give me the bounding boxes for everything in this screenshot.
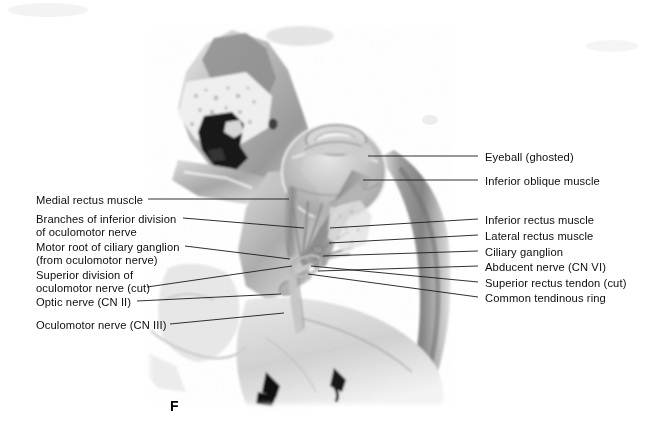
leader-line-lateral-rectus-muscle bbox=[329, 235, 478, 243]
leader-line-ciliary-ganglion bbox=[323, 251, 478, 256]
leader-line-superior-division-oculomotor-nerve-cut bbox=[147, 266, 292, 287]
label-ciliary-ganglion: Ciliary ganglion bbox=[485, 246, 563, 259]
figure-letter: F bbox=[170, 398, 179, 414]
label-eyeball-ghosted: Eyeball (ghosted) bbox=[485, 151, 574, 164]
label-motor-root-ciliary-ganglion: Motor root of ciliary ganglion (from ocu… bbox=[36, 241, 180, 266]
leader-line-oculomotor-nerve-cn-iii bbox=[170, 313, 284, 324]
label-superior-rectus-tendon-cut: Superior rectus tendon (cut) bbox=[485, 277, 626, 290]
leader-line-common-tendinous-ring bbox=[308, 274, 478, 297]
label-medial-rectus-muscle: Medial rectus muscle bbox=[36, 194, 143, 207]
leader-line-inferior-rectus-muscle bbox=[330, 219, 478, 228]
label-abducent-nerve-cn-vi: Abducent nerve (CN VI) bbox=[485, 261, 606, 274]
label-common-tendinous-ring: Common tendinous ring bbox=[485, 292, 606, 305]
label-oculomotor-nerve-cn-iii: Oculomotor nerve (CN III) bbox=[36, 319, 167, 332]
label-optic-nerve-cn-ii: Optic nerve (CN II) bbox=[36, 296, 131, 309]
leader-line-motor-root-ciliary-ganglion bbox=[185, 246, 290, 259]
leader-line-branches-inferior-division-oculomotor-nerve bbox=[183, 218, 304, 228]
label-branches-inferior-division-oculomotor-nerve: Branches of inferior division of oculomo… bbox=[36, 213, 176, 238]
label-inferior-rectus-muscle: Inferior rectus muscle bbox=[485, 214, 594, 227]
anatomy-figure: Medial rectus muscleBranches of inferior… bbox=[0, 0, 645, 438]
label-lateral-rectus-muscle: Lateral rectus muscle bbox=[485, 230, 593, 243]
leader-line-abducent-nerve-cn-vi bbox=[318, 266, 478, 271]
leader-line-optic-nerve-cn-ii bbox=[137, 294, 281, 301]
label-superior-division-oculomotor-nerve-cut: Superior division of oculomotor nerve (c… bbox=[36, 269, 150, 294]
label-inferior-oblique-muscle: Inferior oblique muscle bbox=[485, 175, 600, 188]
